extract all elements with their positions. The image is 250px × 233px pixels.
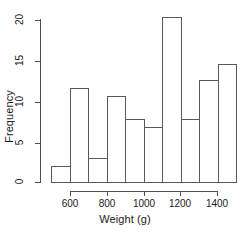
histogram-bar — [181, 119, 200, 183]
x-tick-800 — [107, 191, 108, 196]
histogram-bar — [162, 17, 182, 183]
x-tick-600 — [70, 191, 71, 196]
x-axis-label: Weight (g) — [0, 213, 250, 225]
x-tick-label-1000: 1000 — [127, 198, 161, 209]
x-tick-label-1400: 1400 — [200, 198, 234, 209]
x-tick-1400 — [217, 191, 218, 196]
x-tick-label-800: 800 — [90, 198, 124, 209]
x-tick-label-600: 600 — [53, 198, 87, 209]
histogram-bar — [125, 119, 145, 183]
histogram-bar — [144, 127, 163, 183]
x-tick-label-1200: 1200 — [163, 198, 197, 209]
histogram-bar — [107, 96, 126, 183]
histogram-bar — [199, 80, 219, 183]
histogram-bar — [218, 64, 237, 183]
histogram-figure: Frequency 0 5 10 15 20 600 800 1000 1200… — [0, 0, 250, 233]
x-tick-1000 — [144, 191, 145, 196]
histogram-bar — [88, 158, 108, 183]
x-tick-1200 — [180, 191, 181, 196]
histogram-baseline — [51, 182, 236, 183]
histogram-bar — [51, 166, 71, 183]
histogram-bar — [70, 88, 89, 183]
